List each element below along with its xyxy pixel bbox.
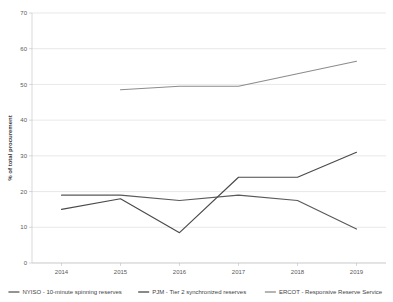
x-tick-label: 2019 [350, 269, 364, 275]
y-tick-labels: 010203040506070 [20, 10, 27, 266]
legend-label-0: NYISO - 10-minute spinning reserves [22, 289, 121, 295]
x-tick-label: 2015 [114, 269, 128, 275]
chart-canvas: 010203040506070 201420152016201720182019… [0, 0, 393, 302]
gridlines [32, 13, 386, 263]
x-tick-label: 2014 [55, 269, 69, 275]
y-tick-label: 10 [20, 224, 27, 230]
y-tick-label: 50 [20, 82, 27, 88]
series-lines [62, 61, 357, 232]
y-axis-title: % of total procurement [7, 115, 13, 180]
legend-label-2: ERCOT - Responsive Reserve Service [279, 289, 383, 295]
x-axis [32, 13, 386, 266]
x-tick-label: 2018 [291, 269, 305, 275]
y-tick-marks [29, 13, 32, 263]
y-tick-label: 60 [20, 46, 27, 52]
legend-label-1: PJM - Tier 2 synchronized reserves [152, 289, 246, 295]
y-tick-label: 0 [24, 260, 28, 266]
y-tick-label: 30 [20, 153, 27, 159]
y-tick-label: 40 [20, 117, 27, 123]
series-line-1 [62, 152, 357, 232]
x-tick-label: 2017 [232, 269, 246, 275]
series-line-0 [62, 195, 357, 229]
line-chart: 010203040506070 201420152016201720182019… [0, 0, 393, 302]
y-tick-label: 70 [20, 10, 27, 16]
x-tick-labels: 201420152016201720182019 [55, 269, 364, 275]
chart-legend: NYISO - 10-minute spinning reservesPJM -… [8, 289, 382, 295]
x-tick-label: 2016 [173, 269, 187, 275]
series-line-2 [121, 61, 357, 90]
y-tick-label: 20 [20, 189, 27, 195]
